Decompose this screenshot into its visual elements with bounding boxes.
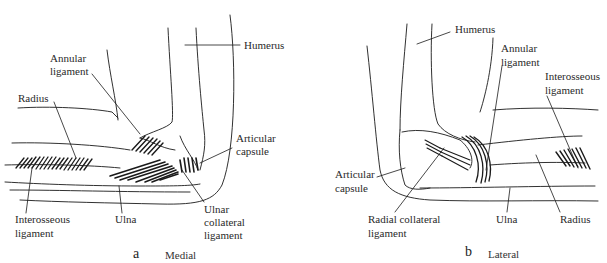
label-annular-b-1: Annular: [501, 42, 537, 55]
panel-b-leaders: [377, 32, 578, 212]
panel-b-annular-band: [462, 136, 490, 183]
label-ulnar-collateral-3: ligament: [204, 229, 243, 242]
label-radial-collateral-2: ligament: [368, 227, 407, 240]
label-annular-a-2: ligament: [50, 65, 89, 78]
panel-b-letter: b: [465, 244, 472, 260]
label-radius-a: Radius: [18, 92, 49, 105]
label-humerus-b: Humerus: [455, 23, 495, 36]
label-ulnar-collateral-1: Ulnar: [204, 203, 229, 216]
panel-b-view: Lateral: [488, 248, 519, 260]
panel-a-view: Medial: [165, 249, 196, 261]
panel-a-interosseous-hatch: [16, 157, 92, 170]
label-radius-b: Radius: [560, 213, 591, 226]
label-interosseous-a-1: Interosseous: [15, 213, 70, 226]
label-articular-a-1: Articular: [236, 132, 276, 145]
label-humerus-a: Humerus: [244, 39, 284, 52]
panel-b-radial-collateral-hatch: [425, 140, 470, 170]
label-annular-a-1: Annular: [50, 52, 86, 65]
panel-b-interosseous-hatch: [556, 148, 590, 169]
label-interosseous-b-1: Interosseous: [545, 70, 600, 83]
label-articular-b-1: Articular: [335, 168, 375, 181]
label-interosseous-a-2: ligament: [15, 227, 54, 240]
label-articular-a-2: capsule: [236, 145, 269, 158]
label-ulna-a: Ulna: [115, 213, 136, 226]
panel-a-letter: a: [133, 246, 139, 262]
label-ulna-b: Ulna: [496, 213, 517, 226]
label-articular-b-2: capsule: [335, 182, 368, 195]
label-ulnar-collateral-2: collateral: [204, 216, 245, 229]
label-radial-collateral-1: Radial collateral: [368, 213, 440, 226]
label-annular-b-2: ligament: [501, 56, 540, 69]
panel-a-ulnar-collateral-fan: [110, 158, 198, 182]
label-interosseous-b-2: ligament: [545, 84, 584, 97]
